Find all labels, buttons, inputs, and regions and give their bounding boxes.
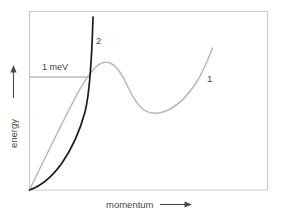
y-axis-label: energy bbox=[8, 119, 19, 148]
dispersion-chart-figure: 1 meV 2 1 energy momentum bbox=[0, 0, 283, 220]
curve-2-label: 2 bbox=[96, 35, 101, 46]
chart-svg: 1 meV 2 1 energy momentum bbox=[0, 0, 283, 220]
x-axis-label: momentum bbox=[106, 199, 154, 210]
curve-1-label: 1 bbox=[207, 73, 212, 84]
energy-axis-arrow-icon bbox=[10, 65, 16, 98]
momentum-axis-arrow-icon bbox=[160, 201, 192, 207]
one-mev-label: 1 meV bbox=[42, 62, 68, 72]
plot-frame bbox=[30, 12, 268, 191]
